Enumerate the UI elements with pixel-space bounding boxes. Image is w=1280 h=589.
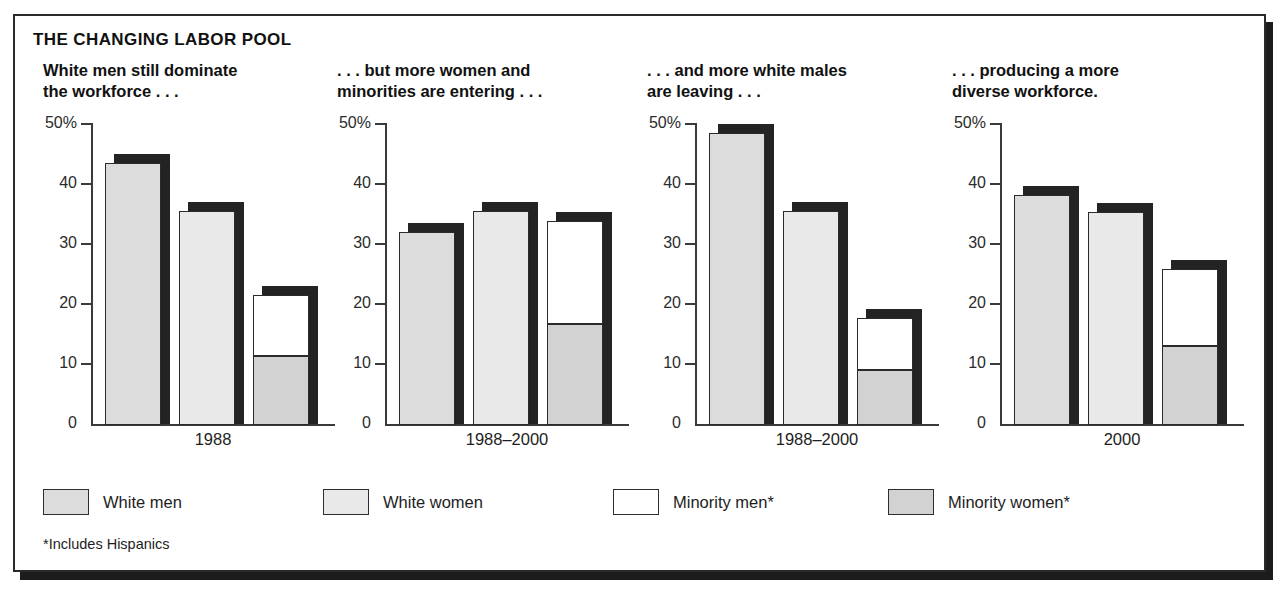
y-axis-label: 30 bbox=[327, 234, 371, 252]
x-axis-label: 1988 bbox=[91, 430, 335, 449]
y-axis-tick bbox=[685, 243, 697, 245]
y-axis-label: 50% bbox=[327, 114, 371, 132]
chart-panel-2: . . . but more women and minorities are … bbox=[325, 60, 633, 480]
legend-item-minority-men: Minority men* bbox=[613, 486, 774, 518]
chart-panel-1: White men still dominate the workforce .… bbox=[31, 60, 339, 480]
chart-panel-3: . . . and more white males are leaving .… bbox=[635, 60, 943, 480]
y-axis bbox=[1000, 124, 1002, 424]
y-axis-label: 10 bbox=[942, 354, 986, 372]
bar-white-women bbox=[783, 211, 839, 425]
y-axis-tick bbox=[685, 363, 697, 365]
footnote: *Includes Hispanics bbox=[43, 536, 170, 552]
chart-panel-4: . . . producing a more diverse workforce… bbox=[940, 60, 1248, 480]
legend-swatch bbox=[613, 489, 659, 515]
bar-minority-men bbox=[547, 221, 603, 324]
y-axis bbox=[385, 124, 387, 424]
legend-label: White men bbox=[103, 493, 182, 512]
y-axis-tick bbox=[375, 363, 387, 365]
y-axis-label: 0 bbox=[327, 414, 371, 432]
bar-white-men bbox=[709, 133, 765, 425]
y-axis-tick bbox=[685, 183, 697, 185]
y-axis-label: 50% bbox=[637, 114, 681, 132]
y-axis-label: 50% bbox=[942, 114, 986, 132]
y-axis bbox=[695, 124, 697, 424]
page-title: THE CHANGING LABOR POOL bbox=[33, 30, 292, 50]
y-axis-label: 40 bbox=[637, 174, 681, 192]
panel-heading: White men still dominate the workforce .… bbox=[43, 60, 335, 102]
bar-white-women bbox=[473, 211, 529, 425]
y-axis-tick bbox=[990, 303, 1002, 305]
y-axis-label: 30 bbox=[637, 234, 681, 252]
panel-heading: . . . producing a more diverse workforce… bbox=[952, 60, 1244, 102]
y-axis-label: 0 bbox=[637, 414, 681, 432]
y-axis-tick bbox=[990, 183, 1002, 185]
legend-swatch bbox=[43, 489, 89, 515]
bar-minority-men bbox=[1162, 269, 1218, 346]
legend-item-minority-women: Minority women* bbox=[888, 486, 1070, 518]
bar-white-men bbox=[399, 232, 455, 425]
y-axis-label: 20 bbox=[33, 294, 77, 312]
y-axis-tick bbox=[990, 363, 1002, 365]
y-axis-tick bbox=[375, 303, 387, 305]
y-axis-tick bbox=[685, 123, 697, 125]
bar-minority-men bbox=[857, 318, 913, 370]
y-axis-label: 10 bbox=[33, 354, 77, 372]
legend-item-white-women: White women bbox=[323, 486, 483, 518]
x-axis-label: 1988–2000 bbox=[385, 430, 629, 449]
plot-area: 01020304050%1988–2000 bbox=[337, 124, 629, 424]
y-axis-label: 50% bbox=[33, 114, 77, 132]
legend-label: Minority women* bbox=[948, 493, 1070, 512]
y-axis-tick bbox=[375, 123, 387, 125]
panel-heading: . . . but more women and minorities are … bbox=[337, 60, 629, 102]
y-axis-tick bbox=[81, 363, 93, 365]
plot-area: 01020304050%1988–2000 bbox=[647, 124, 939, 424]
bar-white-women bbox=[1088, 212, 1144, 425]
legend-swatch bbox=[888, 489, 934, 515]
plot-area: 01020304050%1988 bbox=[43, 124, 335, 424]
y-axis-label: 20 bbox=[637, 294, 681, 312]
plot-area: 01020304050%2000 bbox=[952, 124, 1244, 424]
y-axis-label: 20 bbox=[327, 294, 371, 312]
bar-white-men bbox=[105, 163, 161, 425]
bar-minority-women bbox=[1162, 346, 1218, 425]
y-axis-label: 40 bbox=[33, 174, 77, 192]
y-axis-tick bbox=[81, 243, 93, 245]
legend-item-white-men: White men bbox=[43, 486, 182, 518]
bar-white-women bbox=[179, 211, 235, 425]
legend-swatch bbox=[323, 489, 369, 515]
panel-heading: . . . and more white males are leaving .… bbox=[647, 60, 939, 102]
y-axis-tick bbox=[81, 183, 93, 185]
x-axis-label: 1988–2000 bbox=[695, 430, 939, 449]
y-axis-tick bbox=[81, 123, 93, 125]
y-axis-label: 30 bbox=[33, 234, 77, 252]
legend-label: Minority men* bbox=[673, 493, 774, 512]
y-axis-label: 0 bbox=[33, 414, 77, 432]
legend-label: White women bbox=[383, 493, 483, 512]
y-axis-label: 10 bbox=[327, 354, 371, 372]
y-axis-tick bbox=[375, 183, 387, 185]
bar-minority-women bbox=[547, 324, 603, 425]
y-axis-label: 40 bbox=[942, 174, 986, 192]
y-axis-label: 0 bbox=[942, 414, 986, 432]
bar-minority-men bbox=[253, 295, 309, 356]
y-axis-label: 30 bbox=[942, 234, 986, 252]
y-axis-label: 20 bbox=[942, 294, 986, 312]
y-axis-tick bbox=[990, 243, 1002, 245]
bar-white-men bbox=[1014, 195, 1070, 425]
y-axis bbox=[91, 124, 93, 424]
chart-frame: THE CHANGING LABOR POOL White men still … bbox=[13, 14, 1266, 572]
y-axis-tick bbox=[990, 123, 1002, 125]
y-axis-tick bbox=[685, 303, 697, 305]
bar-minority-women bbox=[253, 356, 309, 425]
labor-pool-figure: THE CHANGING LABOR POOL White men still … bbox=[0, 0, 1280, 589]
x-axis-label: 2000 bbox=[1000, 430, 1244, 449]
y-axis-label: 40 bbox=[327, 174, 371, 192]
y-axis-tick bbox=[81, 303, 93, 305]
bar-minority-women bbox=[857, 370, 913, 425]
legend: White menWhite womenMinority men*Minorit… bbox=[43, 486, 1223, 520]
y-axis-label: 10 bbox=[637, 354, 681, 372]
y-axis-tick bbox=[375, 243, 387, 245]
